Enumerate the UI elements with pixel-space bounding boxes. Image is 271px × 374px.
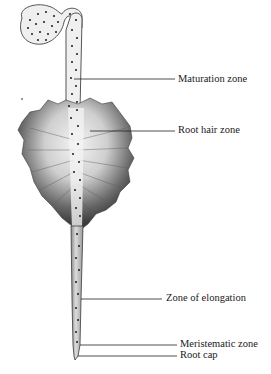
maturation-zone-label: Maturation zone [178,74,247,85]
root-hair-zone-label: Root hair zone [178,125,240,136]
lower-root-shaft [71,226,83,360]
root-diagram: Maturation zone Root hair zone Zone of e… [0,0,271,374]
maturation-stem [66,13,82,110]
root-hair-zone-shape [18,98,134,230]
root-illustration [0,0,271,374]
root-cap-label: Root cap [180,350,218,361]
meristematic-zone-label: Meristematic zone [180,339,258,350]
zone-of-elongation-label: Zone of elongation [166,293,246,304]
